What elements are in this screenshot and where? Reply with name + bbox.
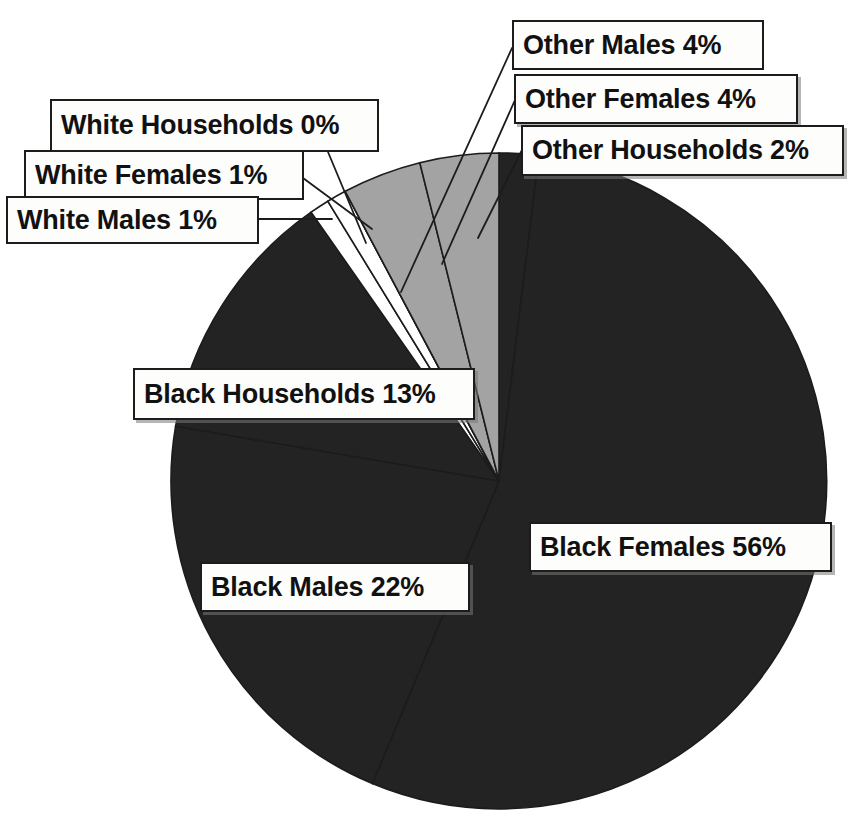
callout-black-males: Black Males 22% bbox=[200, 562, 470, 612]
callout-black-households-text: Black Households 13% bbox=[144, 381, 436, 408]
callout-other-females-text: Other Females 4% bbox=[525, 86, 756, 113]
callout-other-households-text: Other Households 2% bbox=[532, 137, 809, 164]
callout-white-females-text: White Females 1% bbox=[35, 162, 267, 189]
callout-black-households: Black Households 13% bbox=[133, 368, 475, 420]
callout-white-households: White Households 0% bbox=[50, 99, 379, 152]
callout-white-males-text: White Males 1% bbox=[17, 207, 217, 234]
callout-black-females: Black Females 56% bbox=[529, 522, 832, 572]
callout-black-males-text: Black Males 22% bbox=[211, 574, 424, 601]
callout-black-females-text: Black Females 56% bbox=[540, 534, 786, 561]
callout-white-households-text: White Households 0% bbox=[61, 112, 339, 139]
callout-white-males: White Males 1% bbox=[6, 196, 259, 244]
callout-other-males-text: Other Males 4% bbox=[523, 32, 721, 59]
callout-other-households: Other Households 2% bbox=[521, 125, 844, 176]
pie-chart-figure: Other Males 4% Other Females 4% Other Ho… bbox=[0, 0, 859, 825]
callout-white-females: White Females 1% bbox=[24, 150, 304, 200]
callout-other-males: Other Males 4% bbox=[512, 20, 764, 70]
callout-other-females: Other Females 4% bbox=[514, 74, 798, 124]
